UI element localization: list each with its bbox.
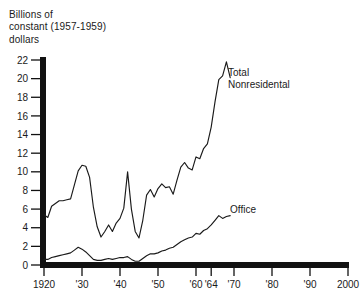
x-tick-label: '50 xyxy=(151,279,164,290)
series-label-total-nonresidential-line2: Nonresidental xyxy=(228,79,290,90)
y-tick-label: 12 xyxy=(17,148,29,159)
x-tick-label: '30 xyxy=(75,279,88,290)
y-tick-label: 0 xyxy=(22,260,28,271)
x-tick-label: '64 xyxy=(205,279,218,290)
x-tick-label: '80 xyxy=(265,279,278,290)
series-label-office: Office xyxy=(230,204,256,215)
y-tick-label: 18 xyxy=(17,92,29,103)
y-tick-label: 2 xyxy=(22,241,28,252)
x-tick-labels: 1920'30'40'50'60'64'70'80'902000 xyxy=(33,279,360,290)
y-tick-label: 14 xyxy=(17,129,29,140)
x-tick-label: '70 xyxy=(227,279,240,290)
series-line-office xyxy=(44,216,230,262)
x-tick-label: 2000 xyxy=(337,279,360,290)
data-series-lines xyxy=(44,62,230,261)
y-axis-spine xyxy=(40,57,46,268)
x-tick-marks xyxy=(44,268,348,276)
y-tick-label: 8 xyxy=(22,185,28,196)
x-tick-label: '90 xyxy=(303,279,316,290)
x-axis-spine xyxy=(40,262,349,268)
y-tick-label: 10 xyxy=(17,166,29,177)
y-tick-label: 6 xyxy=(22,204,28,215)
y-tick-labels: 0246810121416182022 xyxy=(17,55,29,271)
x-tick-label: '40 xyxy=(113,279,126,290)
y-tick-label: 4 xyxy=(22,222,28,233)
chart-plot-area: 0246810121416182022 1920'30'40'50'60'64'… xyxy=(0,0,362,296)
x-tick-label: '60 xyxy=(189,279,202,290)
x-tick-label: 1920 xyxy=(33,279,56,290)
y-tick-label: 22 xyxy=(17,55,29,66)
y-tick-marks xyxy=(31,60,40,265)
series-label-total-nonresidential-line1: Total xyxy=(228,67,249,78)
chart-figure: Billions of constant (1957-1959) dollars… xyxy=(0,0,362,296)
series-line-total-nonresidental xyxy=(44,62,230,238)
y-tick-label: 16 xyxy=(17,111,29,122)
y-tick-label: 20 xyxy=(17,73,29,84)
